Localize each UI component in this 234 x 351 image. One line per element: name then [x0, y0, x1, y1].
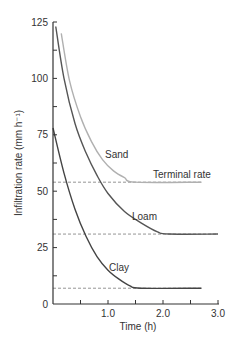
- x-tick-label: 1.0: [101, 308, 115, 319]
- sand-label: Sand: [105, 149, 128, 160]
- y-tick-label: 0: [42, 299, 48, 310]
- y-tick-label: 25: [37, 242, 49, 253]
- x-tick-label: 2.0: [156, 308, 170, 319]
- axis-ticks: [53, 22, 218, 304]
- terminal-rate-label: Terminal rate: [153, 169, 211, 180]
- x-tick-label: 3.0: [211, 308, 225, 319]
- infiltration-chart: 0 25 50 75 100 125 1.0 2.0 3.0 Time (h) …: [0, 0, 234, 351]
- y-tick-label: 75: [37, 129, 49, 140]
- sand-curve: [61, 33, 201, 182]
- curves: [53, 27, 218, 289]
- y-tick-label: 100: [31, 73, 48, 84]
- y-tick-label: 50: [37, 186, 49, 197]
- clay-label: Clay: [109, 262, 129, 273]
- terminal-rate-lines: [53, 182, 218, 288]
- y-tick-label: 125: [31, 17, 48, 28]
- loam-curve: [56, 27, 218, 235]
- loam-label: Loam: [132, 211, 157, 222]
- x-axis-label: Time (h): [120, 321, 157, 332]
- y-axis-label: Infiltration rate (mm h⁻¹): [13, 110, 24, 216]
